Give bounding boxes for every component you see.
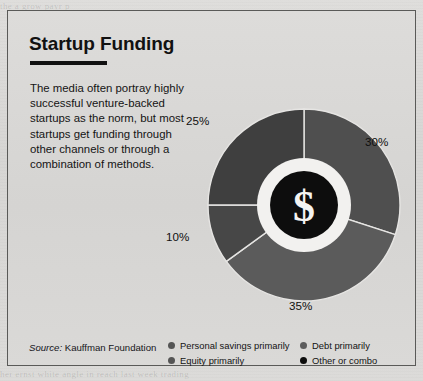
legend-swatch-icon xyxy=(168,342,175,349)
legend-item-label: Equity primarily xyxy=(180,355,244,366)
body-paragraph: The media often portray highly successfu… xyxy=(30,81,190,172)
source-name: Kauffman Foundation xyxy=(65,342,157,353)
legend-swatch-icon xyxy=(300,342,307,349)
slice-label-25: 25% xyxy=(186,114,209,127)
slice-label-35: 35% xyxy=(289,299,312,312)
dollar-sign-icon: $ xyxy=(293,182,315,231)
legend-item: Personal savings primarily xyxy=(168,339,302,352)
infographic-panel: Startup Funding The media often portray … xyxy=(7,10,416,366)
slice-label-10: 10% xyxy=(166,230,189,243)
legend-item-label: Debt primarily xyxy=(312,340,370,351)
page-bleedthrough-bottom: her ernst white angle in reach last week… xyxy=(0,369,423,379)
slice-label-30: 30% xyxy=(365,135,388,148)
legend-swatch-icon xyxy=(300,357,307,364)
legend-column-right: Debt primarily Other or combo xyxy=(300,339,418,369)
page-title: Startup Funding xyxy=(29,33,174,55)
legend-swatch-icon xyxy=(168,357,175,364)
source-credit: Source: Kauffman Foundation xyxy=(29,342,156,353)
legend-item-label: Other or combo xyxy=(312,355,377,366)
title-underline-rule xyxy=(30,61,107,65)
source-label: Source: xyxy=(29,342,62,353)
legend-item: Equity primarily xyxy=(168,354,302,367)
legend-item: Other or combo xyxy=(300,354,418,367)
legend-item-label: Personal savings primarily xyxy=(180,340,289,351)
legend-item: Debt primarily xyxy=(300,339,418,352)
legend-column-left: Personal savings primarily Equity primar… xyxy=(168,339,302,369)
